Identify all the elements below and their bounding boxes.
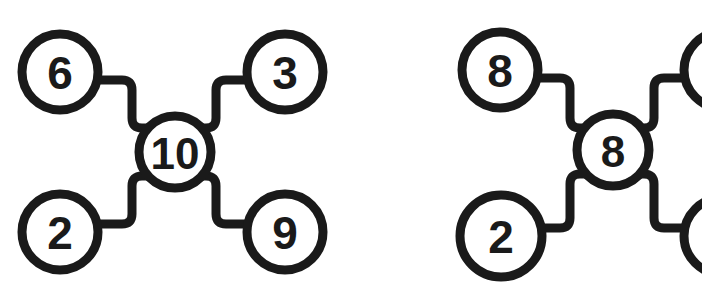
connector-bottomright-to-8center	[636, 174, 684, 228]
connector-2-to-8center	[542, 174, 590, 228]
node-top-right-clipped-circle[interactable]	[684, 32, 702, 108]
node-bottom-right-clipped[interactable]	[684, 198, 702, 274]
node-8-center-label: 8	[601, 127, 625, 176]
node-8-top-left[interactable]: 8	[462, 32, 538, 108]
node-8-center[interactable]: 8	[577, 114, 649, 186]
node-2-bottom-left-label: 2	[488, 211, 514, 263]
node-top-right-clipped[interactable]	[684, 32, 702, 108]
diagram-canvas: 6 3 2 9 10 8	[0, 0, 702, 289]
connector-topright-to-8center	[636, 78, 684, 128]
node-2-bottom-left[interactable]: 2	[460, 195, 542, 277]
right-cluster-diagram: 8 2 8	[0, 0, 702, 289]
node-8-top-left-label: 8	[487, 45, 513, 97]
node-bottom-right-clipped-circle[interactable]	[684, 198, 702, 274]
connector-8tl-to-8center	[540, 78, 590, 128]
